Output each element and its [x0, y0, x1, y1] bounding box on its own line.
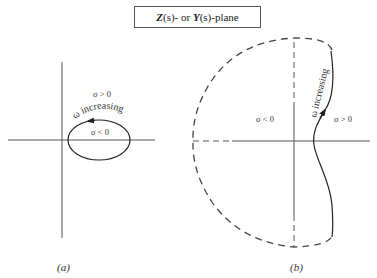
- diagram-canvas: σ > 0 σ < 0 ω increasing σ < 0 σ > 0 ω i…: [0, 0, 377, 278]
- caption-b: (b): [290, 261, 303, 273]
- label-sigma-negative-a: σ < 0: [91, 127, 109, 137]
- dashed-boundary: [193, 38, 332, 247]
- label-sigma-positive-a: σ > 0: [93, 89, 111, 99]
- label-omega-increasing-a: ω increasing: [70, 100, 125, 121]
- label-omega-increasing-b: ω increasing: [307, 67, 330, 118]
- label-sigma-positive-b: σ > 0: [334, 114, 352, 124]
- caption-a: (a): [57, 261, 70, 273]
- direction-arrow-icon-b: [320, 110, 325, 118]
- panel-b: σ < 0 σ > 0 ω increasing: [193, 38, 370, 247]
- panel-a: σ > 0 σ < 0 ω increasing: [8, 62, 155, 238]
- label-sigma-negative-b: σ < 0: [256, 114, 274, 124]
